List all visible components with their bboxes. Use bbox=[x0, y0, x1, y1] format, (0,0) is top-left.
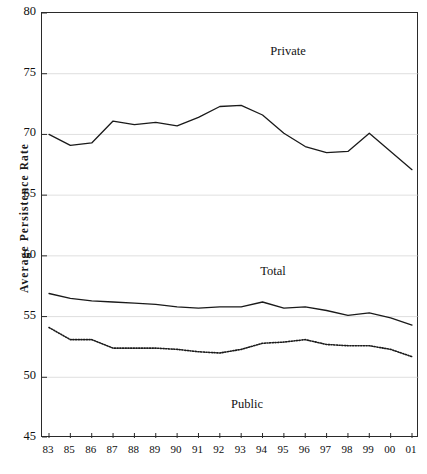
y-tick-label: 75 bbox=[6, 66, 36, 79]
y-axis-tick-labels: 4550556065707580 bbox=[0, 0, 36, 474]
series-label-private: Private bbox=[270, 44, 305, 59]
y-tick-label: 50 bbox=[6, 369, 36, 382]
chart-canvas bbox=[42, 13, 419, 438]
series-line-public bbox=[49, 328, 412, 357]
series-line-private bbox=[49, 105, 412, 169]
y-tick-label: 70 bbox=[6, 126, 36, 139]
series-label-total: Total bbox=[260, 264, 286, 279]
chart-figure: Average Persistence Rate 455055606570758… bbox=[0, 0, 427, 474]
series-line-total bbox=[49, 294, 412, 326]
data-series-group bbox=[49, 105, 412, 356]
gridlines bbox=[42, 74, 419, 378]
y-tick-label: 55 bbox=[6, 309, 36, 322]
x-tick-label: 01 bbox=[396, 444, 426, 455]
y-tick-label: 80 bbox=[6, 5, 36, 18]
y-tick-label: 65 bbox=[6, 187, 36, 200]
series-label-public: Public bbox=[231, 397, 263, 412]
y-tick-label: 60 bbox=[6, 248, 36, 261]
y-tick-label: 45 bbox=[6, 430, 36, 443]
y-tick-marks bbox=[42, 13, 47, 438]
x-tick-marks bbox=[49, 433, 412, 438]
plot-area bbox=[41, 12, 418, 437]
